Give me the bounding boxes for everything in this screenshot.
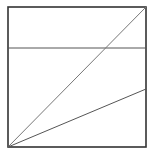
geometric-diagram (0, 0, 155, 160)
diagram-background (0, 0, 155, 160)
